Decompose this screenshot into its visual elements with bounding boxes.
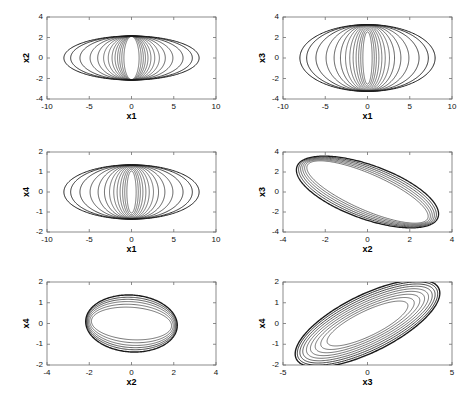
y-tick-label: 1 <box>39 167 44 176</box>
y-tick-label: -1 <box>272 339 280 348</box>
y-tick-label: -4 <box>36 94 44 103</box>
x-tick-label: 5 <box>172 102 177 111</box>
y-tick-label: -2 <box>272 360 280 369</box>
y-tick-label: -4 <box>272 94 280 103</box>
panel-x2-x3: -4-2024-4-2024x2x3 <box>257 144 458 262</box>
y-tick-label: -2 <box>272 207 280 216</box>
y-tick-label: 0 <box>275 53 280 62</box>
y-axis-label: x2 <box>21 53 31 63</box>
y-tick-label: 1 <box>275 298 280 307</box>
x-axis-label: x2 <box>362 244 372 254</box>
plot-frame <box>47 17 216 99</box>
x-tick-label: 10 <box>212 235 221 244</box>
x-tick-label: 0 <box>129 102 134 111</box>
x-tick-label: -10 <box>41 102 53 111</box>
y-axis-label: x4 <box>21 187 31 197</box>
x-axis-label: x1 <box>362 111 372 121</box>
x-tick-label: 0 <box>365 235 370 244</box>
y-tick-label: 4 <box>275 12 280 21</box>
x-tick-label: -5 <box>322 102 330 111</box>
x-tick-label: -4 <box>43 368 51 377</box>
x-tick-label: 2 <box>408 235 413 244</box>
x-tick-label: 4 <box>450 235 455 244</box>
x-tick-label: 0 <box>129 368 134 377</box>
y-tick-label: 2 <box>275 167 280 176</box>
y-tick-label: 2 <box>39 147 44 156</box>
y-axis-label: x4 <box>257 318 267 328</box>
y-tick-label: 4 <box>39 12 44 21</box>
y-tick-label: -2 <box>36 227 44 236</box>
y-tick-label: 0 <box>39 187 44 196</box>
y-tick-label: -2 <box>272 74 280 83</box>
y-tick-label: 0 <box>39 53 44 62</box>
y-tick-label: 4 <box>275 147 280 156</box>
x-tick-label: 0 <box>129 235 134 244</box>
x-tick-label: -5 <box>279 368 287 377</box>
y-tick-label: 2 <box>39 277 44 286</box>
y-axis-label: x3 <box>257 53 267 63</box>
phase-portrait-figure: -10-50510-4-2024x1x2-10-50510-4-2024x1x3… <box>0 0 471 401</box>
y-tick-label: 2 <box>275 277 280 286</box>
y-tick-label: -1 <box>36 339 44 348</box>
panel-x2-x4: -4-2024-2-1012x2x4 <box>21 274 222 395</box>
x-tick-label: 10 <box>212 102 221 111</box>
panel-x1-x3: -10-50510-4-2024x1x3 <box>257 9 458 129</box>
x-tick-label: 0 <box>365 368 370 377</box>
x-tick-label: -5 <box>86 102 94 111</box>
x-axis-label: x3 <box>362 377 372 387</box>
y-tick-label: 0 <box>275 187 280 196</box>
y-axis-label: x3 <box>257 187 267 197</box>
x-tick-label: 5 <box>172 235 177 244</box>
y-tick-label: 0 <box>275 319 280 328</box>
x-tick-label: -2 <box>322 235 330 244</box>
x-tick-label: 2 <box>172 368 177 377</box>
x-tick-label: -5 <box>86 235 94 244</box>
y-tick-label: 2 <box>275 33 280 42</box>
y-axis-label: x4 <box>21 318 31 328</box>
panel-x1-x4: -10-50510-2-1012x1x4 <box>21 144 222 262</box>
x-tick-label: -10 <box>41 235 53 244</box>
panel-x3-x4: -505-2-1012x3x4 <box>257 274 458 395</box>
x-tick-label: 4 <box>214 368 219 377</box>
x-tick-label: -10 <box>277 102 289 111</box>
y-tick-label: -2 <box>36 74 44 83</box>
x-tick-label: 5 <box>450 368 455 377</box>
x-tick-label: 5 <box>408 102 413 111</box>
x-tick-label: -2 <box>86 368 94 377</box>
x-axis-label: x1 <box>126 244 136 254</box>
y-tick-label: 1 <box>39 298 44 307</box>
x-axis-label: x1 <box>126 111 136 121</box>
x-tick-label: -4 <box>279 235 287 244</box>
y-tick-label: 2 <box>39 33 44 42</box>
x-tick-label: 0 <box>365 102 370 111</box>
x-tick-label: 10 <box>448 102 457 111</box>
plot-frame <box>283 17 452 99</box>
y-tick-label: -1 <box>36 207 44 216</box>
x-axis-label: x2 <box>126 377 136 387</box>
y-tick-label: -4 <box>272 227 280 236</box>
y-tick-label: -2 <box>36 360 44 369</box>
y-tick-label: 0 <box>39 319 44 328</box>
plot-frame <box>47 152 216 232</box>
panel-x1-x2: -10-50510-4-2024x1x2 <box>21 9 222 129</box>
